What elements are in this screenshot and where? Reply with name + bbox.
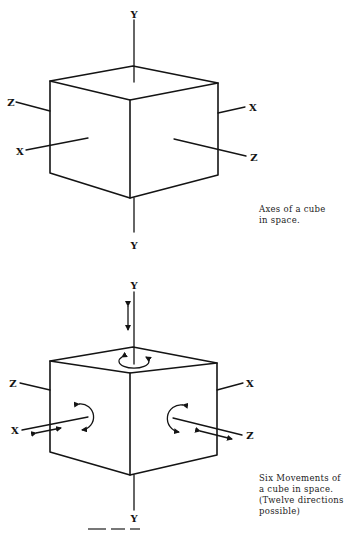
label-y-top: Y	[129, 9, 138, 20]
cube-diagram: Y Y Z X X Z Y Y Z X X	[0, 0, 356, 533]
label-x-right: X	[249, 102, 257, 113]
top-cube	[50, 66, 218, 198]
z-axis-right	[174, 139, 246, 156]
cropped-figure-caption	[88, 528, 218, 533]
x-axis-left	[22, 417, 88, 430]
caption-line: Six Movements of	[259, 473, 344, 484]
label-z-right: Z	[246, 430, 253, 441]
bottom-cube	[50, 347, 217, 475]
label-y-bottom: Y	[129, 513, 138, 524]
bottom-cube-outline	[50, 361, 217, 475]
caption-line: (Twelve directions	[259, 495, 344, 506]
caption-line: in space.	[259, 215, 326, 226]
label-y-bottom: Y	[129, 240, 138, 251]
top-caption: Axes of a cube in space.	[259, 204, 326, 226]
label-x-right: X	[246, 378, 254, 389]
caption-line: a cube in space.	[259, 484, 344, 495]
label-y-top: Y	[129, 280, 138, 291]
label-z-left: Z	[9, 378, 16, 389]
label-x-left: X	[11, 425, 19, 436]
translate-x-arrow-icon	[36, 428, 61, 433]
caption-line: possible)	[259, 506, 344, 517]
label-x-left: X	[16, 146, 24, 157]
x-axis-left	[26, 138, 88, 150]
bottom-caption: Six Movements of a cube in space. (Twelv…	[259, 473, 344, 517]
top-cube-labels: Y Y Z X X Z	[7, 9, 257, 251]
bottom-cube-axes	[20, 292, 243, 510]
x-axis-right	[217, 383, 243, 390]
z-axis-left	[16, 102, 50, 111]
x-axis-right	[218, 107, 245, 113]
label-z-right: Z	[250, 152, 257, 163]
translate-z-arrow-icon	[200, 431, 232, 439]
caption-line: Axes of a cube	[259, 204, 326, 215]
label-z-left: Z	[7, 97, 14, 108]
z-axis-left	[20, 383, 50, 390]
